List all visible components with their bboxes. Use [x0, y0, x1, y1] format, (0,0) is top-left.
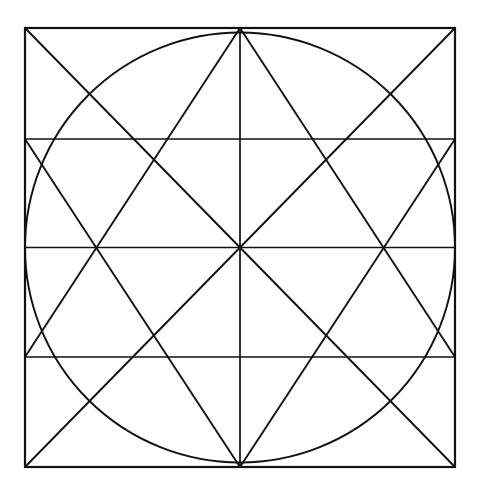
geometric-figure-container: [0, 0, 480, 495]
diagonal-bottom-center-to-right-upper: [240, 139, 455, 467]
geometry-canvas: [0, 0, 480, 495]
diagonal-top-center-to-right-lower: [240, 28, 455, 357]
diagonal-bottom-center-to-left-upper: [25, 139, 240, 467]
diagonal-top-center-to-left-lower: [25, 28, 240, 357]
